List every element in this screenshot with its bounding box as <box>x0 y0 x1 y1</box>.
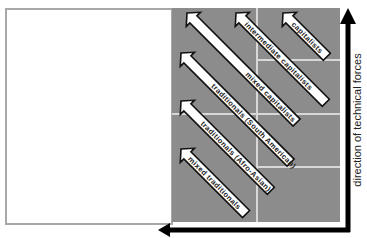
arrow-label: traditionals (South American) <box>209 82 298 171</box>
arrow-traditionals-afro-asian: traditionals (Afro-Asian) <box>174 94 278 198</box>
left-arrow-icon <box>158 223 170 237</box>
up-arrow-icon <box>340 8 356 24</box>
arrow-label: capitalists <box>290 20 325 55</box>
arrows-layer: .arr{fill:#fff;stroke:#111;stroke-width:… <box>0 0 367 238</box>
arrow-label: mixed traditionals <box>186 155 243 212</box>
vertical-axis-label: direction of technical forces <box>351 53 363 186</box>
arrow-intermediate-capitalists: intermediate capitalists <box>229 6 333 110</box>
